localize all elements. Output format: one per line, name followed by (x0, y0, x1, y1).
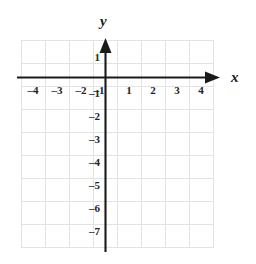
coordinate-grid (0, 0, 256, 264)
x-tick-label: 3 (174, 85, 180, 96)
y-axis (100, 38, 112, 252)
x-axis-label: x (231, 70, 239, 85)
x-tick-label: 1 (126, 85, 132, 96)
x-tick-label: –3 (52, 85, 63, 96)
y-tick-label: –1 (80, 88, 100, 99)
y-axis-label: y (100, 14, 107, 29)
x-tick-label: –4 (28, 85, 39, 96)
y-tick-label: –4 (80, 157, 100, 168)
y-tick-label: –5 (80, 180, 100, 191)
x-tick-label: 2 (150, 85, 156, 96)
x-tick-label: 4 (198, 85, 204, 96)
coordinate-plane-figure: y x –4 –3 –2 –1 1 2 3 4 1 –1 –2 –3 –4 –5… (0, 0, 256, 264)
y-tick-label: –3 (80, 134, 100, 145)
y-tick-label: –2 (80, 111, 100, 122)
y-tick-label: 1 (86, 52, 100, 63)
y-tick-label: –6 (80, 203, 100, 214)
y-tick-label: –7 (80, 226, 100, 237)
vertical-gridlines (22, 40, 214, 248)
